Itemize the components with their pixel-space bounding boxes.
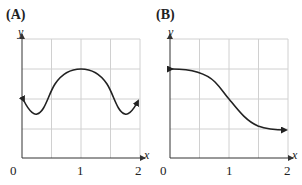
panel-b-axes xyxy=(170,34,293,158)
panel-a-grid xyxy=(22,39,140,158)
charts-svg xyxy=(0,0,302,185)
panel-a-axes xyxy=(22,34,145,158)
